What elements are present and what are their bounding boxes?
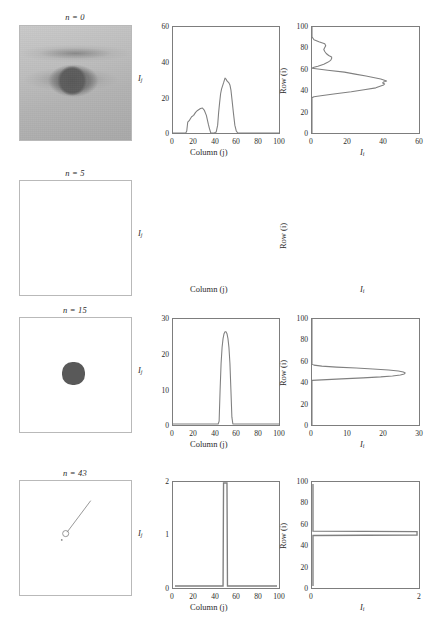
- ytick-n15-row-40: 40: [288, 378, 308, 387]
- ylabel-n0-row-plot: Row (i): [278, 56, 288, 106]
- xlabel-n0-row-plot: Ii: [360, 147, 365, 157]
- row-projection-curve-n0: [312, 27, 419, 133]
- xtick-n15-col-60: 60: [229, 429, 243, 438]
- ytick-n15-col-10: 10: [151, 386, 169, 395]
- panel-title-n5: n = 5: [20, 168, 130, 178]
- ylabel-n43-column-plot: Ij: [138, 528, 143, 538]
- column-projection-plot-n0: [172, 26, 280, 134]
- ytick-n0-col-40: 40: [151, 58, 169, 67]
- row-projection-curve-n43: [312, 482, 419, 588]
- ytick-n0-row-80: 80: [288, 43, 308, 52]
- ylabel-n5-column-plot: Ij: [138, 228, 143, 238]
- ytick-n43-col-1: 1: [151, 530, 169, 539]
- xtick-n43-col-80: 80: [251, 592, 265, 601]
- xtick-n0-col-100: 100: [270, 137, 288, 146]
- image-panel-n0: [19, 25, 132, 141]
- ytick-n15-col-20: 20: [151, 350, 169, 359]
- dark-blob-shape: [62, 362, 85, 385]
- ytick-n43-row-40: 40: [288, 541, 308, 550]
- ylabel-n15-column-plot: Ij: [138, 365, 143, 375]
- ytick-n43-row-100: 100: [288, 477, 308, 486]
- ytick-n43-row-80: 80: [288, 498, 308, 507]
- xtick-n43-col-60: 60: [229, 592, 243, 601]
- column-projection-curve-n15: [173, 319, 279, 425]
- xlabel-n15-column-plot: Column (j): [190, 439, 228, 449]
- image-panel-n15: [19, 317, 132, 433]
- xtick-n0-row-60: 60: [412, 137, 426, 146]
- image-panel-n43: [19, 480, 132, 596]
- column-projection-plot-n15: [172, 318, 280, 426]
- ylabel-n43-row-plot: Row (i): [278, 511, 288, 561]
- xtick-n43-col-40: 40: [208, 592, 222, 601]
- xtick-n15-col-100: 100: [270, 429, 288, 438]
- xtick-n15-row-10: 10: [340, 429, 354, 438]
- xlabel-n43-row-plot: Ii: [360, 602, 365, 612]
- ytick-n43-col-2: 2: [151, 477, 169, 486]
- xtick-n15-row-20: 20: [376, 429, 390, 438]
- ylabel-n15-row-plot: Row (i): [278, 348, 288, 398]
- xlabel-n5-column-plot: Column (j): [190, 284, 228, 294]
- ytick-n0-row-60: 60: [288, 65, 308, 74]
- xtick-n0-row-40: 40: [376, 137, 390, 146]
- ytick-n15-row-100: 100: [288, 314, 308, 323]
- xtick-n0-col-20: 20: [186, 137, 200, 146]
- ytick-n15-row-80: 80: [288, 335, 308, 344]
- row-projection-curve-n15: [312, 319, 419, 425]
- xtick-n15-row-30: 30: [412, 429, 426, 438]
- panel-title-n0: n = 0: [20, 12, 130, 22]
- ytick-n15-col-30: 30: [151, 314, 169, 323]
- xtick-n15-col-80: 80: [251, 429, 265, 438]
- xtick-n43-col-0: 0: [165, 592, 179, 601]
- xtick-n0-col-80: 80: [251, 137, 265, 146]
- xtick-n0-row-20: 20: [340, 137, 354, 146]
- ytick-n43-row-20: 20: [288, 563, 308, 572]
- ylabel-n0-column-plot: Ij: [138, 73, 143, 83]
- column-projection-curve-n43: [173, 482, 279, 588]
- row-projection-plot-n43: [311, 481, 420, 589]
- xlabel-n15-row-plot: Ii: [360, 439, 365, 449]
- xtick-n0-col-60: 60: [229, 137, 243, 146]
- xtick-n0-col-0: 0: [165, 137, 179, 146]
- eye-photograph-grain: [20, 26, 131, 140]
- xtick-n43-row-2: 2: [412, 592, 426, 601]
- column-projection-plot-n43: [172, 481, 280, 589]
- dot-with-stalk-shape: [20, 481, 131, 595]
- xlabel-n5-row-plot: Ii: [360, 284, 365, 294]
- ytick-n0-row-20: 20: [288, 108, 308, 117]
- panel-title-n43: n = 43: [20, 468, 130, 478]
- ytick-n15-row-20: 20: [288, 400, 308, 409]
- xtick-n0-row-0: 0: [304, 137, 318, 146]
- xtick-n0-col-40: 40: [208, 137, 222, 146]
- xlabel-n0-column-plot: Column (j): [190, 147, 228, 157]
- ytick-n43-row-60: 60: [288, 520, 308, 529]
- xtick-n15-col-40: 40: [208, 429, 222, 438]
- image-panel-n5: [19, 180, 132, 296]
- xtick-n43-row-0: 0: [304, 592, 318, 601]
- panel-title-n15: n = 15: [20, 305, 130, 315]
- ytick-n0-row-100: 100: [288, 22, 308, 31]
- ytick-n0-col-20: 20: [151, 94, 169, 103]
- column-projection-curve-n0: [173, 27, 279, 133]
- ytick-n0-row-40: 40: [288, 86, 308, 95]
- xtick-n43-col-100: 100: [270, 592, 288, 601]
- figure-panel-grid: n = 0 60 40 20 0 0 20 40 60 80 100 Ij Co…: [0, 0, 445, 628]
- xtick-n15-col-0: 0: [165, 429, 179, 438]
- xlabel-n43-column-plot: Column (j): [190, 602, 228, 612]
- ylabel-n5-row-plot: Row (i): [278, 211, 288, 261]
- row-projection-plot-n15: [311, 318, 420, 426]
- ytick-n15-row-60: 60: [288, 357, 308, 366]
- row-projection-plot-n0: [311, 26, 420, 134]
- xtick-n15-row-0: 0: [304, 429, 318, 438]
- xtick-n15-col-20: 20: [186, 429, 200, 438]
- xtick-n43-col-20: 20: [186, 592, 200, 601]
- ytick-n0-col-60: 60: [151, 22, 169, 31]
- cut-off-caption: [112, 0, 432, 3]
